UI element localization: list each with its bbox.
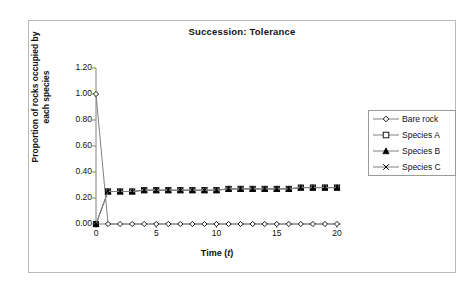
data-point-open-diamond	[298, 221, 303, 226]
legend-key-cross-x-icon	[372, 160, 400, 174]
legend-key-open-diamond-icon-glyph	[372, 112, 400, 126]
legend-key-open-diamond-icon	[372, 112, 400, 126]
chart-container: Succession: Tolerance Proportion of rock…	[0, 0, 468, 295]
data-point-open-diamond	[202, 221, 207, 226]
data-point-open-diamond	[166, 221, 171, 226]
legend-label: Species B	[400, 146, 440, 156]
legend-item-species-a: Species A	[369, 127, 455, 143]
data-point-open-diamond	[142, 221, 147, 226]
data-point-open-diamond	[383, 116, 389, 122]
legend-key-open-square-icon	[372, 128, 400, 142]
legend-item-species-c: Species C	[369, 159, 455, 175]
data-point-open-diamond	[322, 221, 327, 226]
series-bare-rock	[93, 91, 339, 226]
data-point-open-diamond	[214, 221, 219, 226]
data-point-open-diamond	[130, 221, 135, 226]
legend-key-filled-triangle-icon	[372, 144, 400, 158]
legend-key-open-square-icon-glyph	[372, 128, 400, 142]
series-line	[96, 94, 337, 224]
data-point-open-diamond	[178, 221, 183, 226]
data-point-open-diamond	[274, 221, 279, 226]
data-point-open-diamond	[310, 221, 315, 226]
data-point-open-diamond	[154, 221, 159, 226]
data-point-open-diamond	[250, 221, 255, 226]
legend-item-bare-rock: Bare rock	[369, 111, 455, 127]
legend-label: Bare rock	[400, 114, 438, 124]
legend-key-cross-x-icon-glyph	[372, 160, 400, 174]
legend-key-filled-triangle-icon-glyph	[372, 144, 400, 158]
data-point-open-diamond	[118, 221, 123, 226]
data-point-open-diamond	[262, 221, 267, 226]
chart-legend: Bare rock Species A Species B Species C	[368, 110, 456, 176]
data-point-open-diamond	[238, 221, 243, 226]
data-point-open-diamond	[105, 221, 110, 226]
data-point-open-diamond	[190, 221, 195, 226]
data-point-open-diamond	[286, 221, 291, 226]
legend-label: Species C	[400, 162, 441, 172]
legend-item-species-b: Species B	[369, 143, 455, 159]
data-point-open-diamond	[226, 221, 231, 226]
data-point-open-diamond	[334, 221, 339, 226]
data-point-open-square	[383, 132, 389, 138]
legend-label: Species A	[400, 130, 440, 140]
data-point-open-diamond	[93, 91, 98, 96]
